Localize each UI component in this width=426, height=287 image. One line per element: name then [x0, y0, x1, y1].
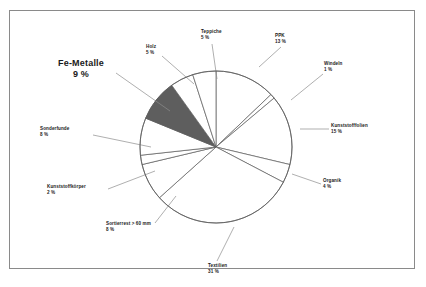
pie-label-kunststofffolien: Kunststofffolien15 %	[331, 123, 368, 135]
pie-slice-group	[140, 71, 292, 223]
pie-label-pct-sonderfunde: 8 %	[40, 132, 69, 138]
chart-frame: PPK13 %Windeln1 %Kunststofffolien15 %Org…	[9, 10, 415, 269]
pie-label-kunststoffk-rper: Kunststoffkörper2 %	[47, 184, 86, 196]
leader-line-organik	[292, 174, 321, 184]
leader-line-ppk	[259, 47, 281, 67]
pie-label-pct-sortierrest-60-mm: 8 %	[106, 227, 151, 233]
pie-label-sonderfunde: Sonderfunde8 %	[40, 126, 69, 138]
pie-label-pct-kunststofffolien: 15 %	[331, 129, 368, 135]
pie-label-pct-windeln: 1 %	[324, 67, 343, 73]
pie-label-pct-fe-metalle: 9 %	[58, 69, 104, 80]
leader-line-fe-metalle	[116, 73, 170, 111]
pie-label-organik: Organik4 %	[323, 178, 341, 190]
pie-label-holz: Holz5 %	[146, 44, 156, 56]
pie-label-name-fe-metalle: Fe-Metalle	[58, 58, 104, 69]
pie-label-ppk: PPK13 %	[275, 33, 286, 45]
leader-line-windeln	[291, 74, 323, 100]
pie-label-textilien: Textilien31 %	[208, 263, 227, 275]
pie-label-pct-ppk: 13 %	[275, 39, 286, 45]
pie-label-pct-teppiche: 5 %	[201, 35, 222, 41]
pie-label-fe-metalle: Fe-Metalle9 %	[58, 58, 104, 81]
pie-label-pct-holz: 5 %	[146, 50, 156, 56]
pie-label-windeln: Windeln1 %	[324, 61, 343, 73]
pie-chart	[10, 11, 416, 270]
pie-label-sortierrest-60-mm: Sortierrest > 60 mm8 %	[106, 221, 151, 233]
pie-label-pct-organik: 4 %	[323, 184, 341, 190]
pie-label-pct-kunststoffk-rper: 2 %	[47, 190, 86, 196]
pie-label-pct-textilien: 31 %	[208, 269, 227, 275]
leader-line-holz	[162, 56, 194, 84]
leader-line-textilien	[217, 227, 234, 261]
pie-label-teppiche: Teppiche5 %	[201, 29, 222, 41]
